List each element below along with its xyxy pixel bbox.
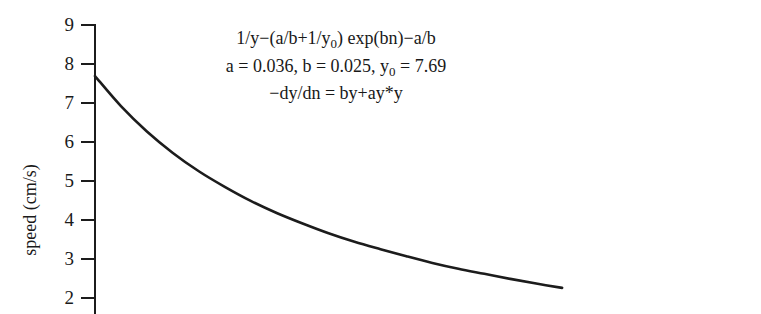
speed-decay-curve (95, 76, 562, 288)
plot-area: 98765432 speed (cm/s) 1/y−(a/b+1/y0) exp… (0, 0, 761, 314)
data-curve-svg (0, 0, 761, 314)
chart-figure: 98765432 speed (cm/s) 1/y−(a/b+1/y0) exp… (0, 0, 761, 314)
